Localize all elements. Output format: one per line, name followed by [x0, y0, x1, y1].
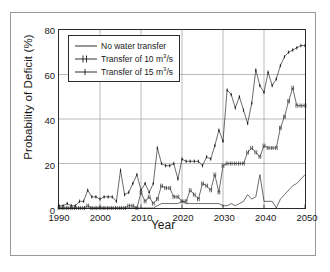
y-axis-title: Probability of Deficit (%) — [22, 22, 34, 172]
series-no-water-transfer — [59, 175, 305, 208]
figure-panel: Probability of Deficit (%) Year 02040608… — [10, 12, 316, 256]
x-tick-label: 2020 — [172, 212, 193, 223]
y-tick-label: 60 — [44, 70, 55, 81]
y-tick-label: 80 — [44, 25, 55, 36]
legend-label-transfer-10: Transfer of 10 m3/s — [101, 53, 173, 64]
x-tick-label: 1990 — [48, 212, 69, 223]
legend-line-cross-icon — [73, 66, 99, 78]
x-tick-label: 2040 — [255, 212, 276, 223]
x-tick-label: 2000 — [90, 212, 111, 223]
legend-line-plain-icon — [73, 40, 99, 52]
x-tick-label: 2030 — [214, 212, 235, 223]
legend-label-transfer-15: Transfer of 15 m3/s — [101, 66, 173, 77]
legend-label-no-transfer: No water transfer — [101, 41, 166, 51]
y-tick-label: 20 — [44, 160, 55, 171]
legend-item-no-transfer: No water transfer — [73, 39, 173, 52]
series-transfer-of-10-m-s — [58, 86, 306, 210]
y-tick-label: 40 — [44, 115, 55, 126]
legend-line-crossbar-icon — [73, 53, 99, 65]
legend-item-transfer-15: Transfer of 15 m3/s — [73, 65, 173, 78]
legend-item-transfer-10: Transfer of 10 m3/s — [73, 52, 173, 65]
x-tick-label: 2010 — [131, 212, 152, 223]
x-tick-label: 2050 — [296, 212, 317, 223]
plot-area: 0204060801990200020102020203020402050 No… — [58, 29, 306, 209]
chart-legend: No water transfer Transfer of 10 m3/s — [68, 35, 180, 82]
